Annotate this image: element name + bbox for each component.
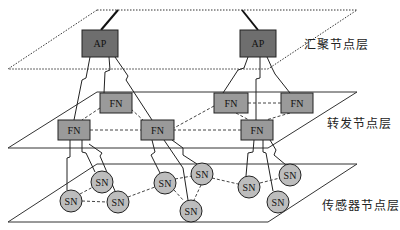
fn-node-1[interactable]: FN [100, 93, 132, 113]
sn-label: SN [159, 178, 172, 189]
fn-node-3[interactable]: FN [141, 120, 174, 140]
sn-node-1[interactable]: SN [91, 171, 113, 193]
sn-label: SN [112, 197, 125, 208]
fn-node-6[interactable]: FN [241, 120, 273, 140]
sn-node-7[interactable]: SN [238, 176, 260, 198]
ap-node-1[interactable]: AP [82, 30, 118, 57]
sn-label: SN [284, 170, 297, 181]
sn-node-8[interactable]: SN [279, 164, 301, 186]
sn-node-3[interactable]: SN [107, 191, 129, 213]
ap-label: AP [252, 38, 265, 49]
sn-node-2[interactable]: SN [60, 190, 82, 212]
ap2-uplink [242, 10, 258, 30]
fn-label: FN [68, 125, 81, 136]
aggregation-layer-label: 汇聚节点层 [304, 35, 369, 52]
sn-node-9[interactable]: SN [267, 191, 289, 213]
ap-label: AP [94, 38, 107, 49]
fn-node-2[interactable]: FN [58, 120, 90, 140]
fn-node-5[interactable]: FN [281, 93, 313, 113]
sn-label: SN [185, 206, 198, 217]
fn-label: FN [225, 98, 238, 109]
sn-label: SN [96, 177, 109, 188]
fn-label: FN [110, 98, 123, 109]
fn-label: FN [151, 125, 164, 136]
fn-label: FN [291, 98, 304, 109]
sn-label: SN [65, 196, 78, 207]
sn-node-6[interactable]: SN [180, 200, 202, 222]
sn-node-4[interactable]: SN [154, 172, 176, 194]
ap-node-2[interactable]: AP [240, 30, 276, 57]
fn-label: FN [251, 125, 264, 136]
ap1-uplink [101, 10, 118, 30]
sn-label: SN [196, 169, 209, 180]
fn-node-4[interactable]: FN [214, 93, 248, 113]
sn-node-5[interactable]: SN [191, 163, 213, 185]
sensor-layer-label: 传感器节点层 [322, 196, 400, 213]
sn-label: SN [272, 197, 285, 208]
forwarding-layer-label: 转发节点层 [327, 114, 392, 131]
sn-label: SN [243, 182, 256, 193]
